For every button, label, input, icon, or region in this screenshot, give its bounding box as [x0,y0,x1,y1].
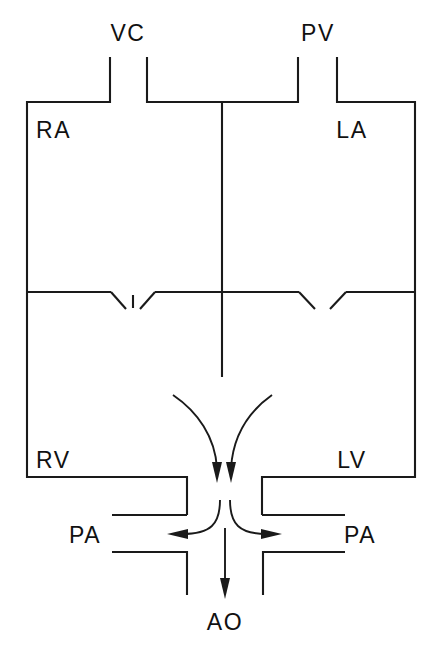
tricuspid-leaflet-right [140,292,155,309]
left-ventricle-wall [262,292,415,515]
tricuspid-leaflet-left [111,292,126,309]
lv-outflow-curve [231,395,272,468]
label-aorta: AO [207,609,243,635]
vena-cava-channel-wall [147,57,298,102]
heart-schematic-svg: VC PV RA LA RV LV PA PA AO [0,0,435,649]
label-pulmonary-artery-left: PA [69,522,101,548]
heart-schematic-diagram: VC PV RA LA RV LV PA PA AO [0,0,435,649]
mitral-leaflet-left [299,292,315,309]
pa-left-arrowhead [167,529,188,539]
label-left-atrium: LA [336,117,367,143]
label-right-atrium: RA [36,117,71,143]
label-left-ventricle: LV [337,447,367,473]
diagram-labels-group: VC PV RA LA RV LV PA PA AO [36,20,376,635]
mitral-leaflet-right [330,292,346,309]
right-atrium-outer-wall [27,57,110,292]
pa-right-lower-wall [263,552,345,595]
pa-right-arrowhead [261,529,282,539]
lv-outflow-arrowhead [226,462,236,483]
rv-outflow-curve [173,395,217,468]
label-vena-cava: VC [110,20,145,46]
label-pulmonary-artery-right: PA [344,522,376,548]
right-ventricle-wall [27,292,187,515]
rv-outflow-arrowhead [212,462,222,483]
label-right-ventricle: RV [36,447,71,473]
left-atrium-outer-wall [337,57,415,292]
pa-left-lower-wall [112,552,187,595]
aorta-arrowhead [220,578,230,599]
label-pulmonary-vein: PV [301,20,335,46]
ventricular-outflow-arrows-group [173,395,272,483]
